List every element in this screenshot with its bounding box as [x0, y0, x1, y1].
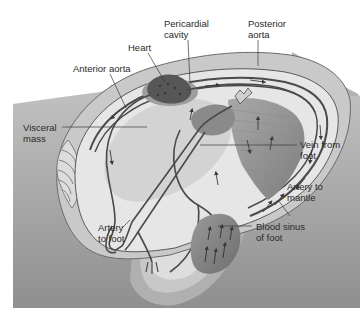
bivalve-circulation-diagram: Heart Pericardial cavity Posterior aorta… [0, 0, 361, 325]
label-anterior-aorta: Anterior aorta [73, 63, 131, 74]
label-heart: Heart [128, 42, 151, 53]
label-posterior-aorta: Posterior aorta [248, 18, 286, 40]
label-blood-sinus-of-foot: Blood sinus of foot [256, 221, 305, 243]
label-artery-to-mantle: Artery to mantle [287, 181, 323, 203]
label-visceral-mass: Visceral mass [23, 122, 57, 144]
label-pericardial-cavity: Pericardial cavity [164, 18, 209, 40]
label-artery-to-foot: Artery to foot [98, 222, 124, 244]
diagram-illustration [0, 0, 361, 325]
label-vein-from-foot: Vein from foot [300, 139, 340, 161]
